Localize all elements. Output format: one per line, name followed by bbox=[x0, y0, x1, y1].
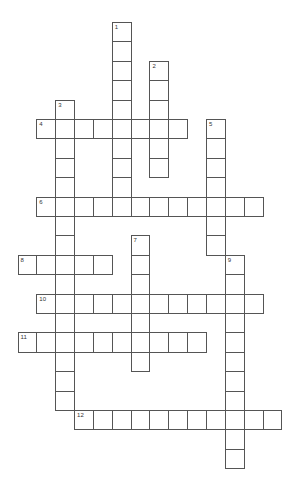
crossword-cell[interactable] bbox=[55, 158, 75, 178]
crossword-cell[interactable]: 9 bbox=[225, 255, 245, 275]
crossword-cell[interactable] bbox=[93, 332, 113, 352]
crossword-cell[interactable] bbox=[149, 100, 169, 120]
crossword-cell[interactable] bbox=[55, 274, 75, 294]
crossword-cell[interactable] bbox=[187, 332, 207, 352]
crossword-cell[interactable] bbox=[55, 371, 75, 391]
crossword-cell[interactable] bbox=[206, 294, 226, 314]
crossword-cell[interactable] bbox=[263, 410, 283, 430]
crossword-cell[interactable] bbox=[225, 332, 245, 352]
crossword-cell[interactable] bbox=[168, 197, 188, 217]
crossword-cell[interactable] bbox=[55, 197, 75, 217]
crossword-cell[interactable]: 8 bbox=[18, 255, 38, 275]
crossword-cell[interactable] bbox=[74, 332, 94, 352]
crossword-cell[interactable] bbox=[55, 352, 75, 372]
crossword-cell[interactable] bbox=[149, 119, 169, 139]
crossword-cell[interactable] bbox=[149, 138, 169, 158]
crossword-cell[interactable] bbox=[112, 177, 132, 197]
crossword-cell[interactable] bbox=[149, 294, 169, 314]
crossword-cell[interactable] bbox=[55, 216, 75, 236]
crossword-cell[interactable] bbox=[55, 391, 75, 411]
crossword-cell[interactable] bbox=[225, 274, 245, 294]
crossword-cell[interactable] bbox=[225, 449, 245, 469]
crossword-cell[interactable] bbox=[36, 255, 56, 275]
crossword-cell[interactable] bbox=[112, 410, 132, 430]
crossword-cell[interactable] bbox=[244, 410, 264, 430]
crossword-cell[interactable]: 11 bbox=[18, 332, 38, 352]
crossword-cell[interactable] bbox=[131, 119, 151, 139]
crossword-cell[interactable] bbox=[149, 332, 169, 352]
crossword-cell[interactable] bbox=[225, 313, 245, 333]
crossword-cell[interactable] bbox=[55, 332, 75, 352]
crossword-cell[interactable] bbox=[225, 429, 245, 449]
crossword-cell[interactable] bbox=[187, 410, 207, 430]
crossword-cell[interactable] bbox=[149, 197, 169, 217]
crossword-cell[interactable] bbox=[55, 235, 75, 255]
crossword-cell[interactable] bbox=[225, 294, 245, 314]
crossword-cell[interactable] bbox=[55, 294, 75, 314]
crossword-cell[interactable]: 3 bbox=[55, 100, 75, 120]
crossword-cell[interactable]: 12 bbox=[74, 410, 94, 430]
crossword-cell[interactable] bbox=[112, 294, 132, 314]
crossword-cell[interactable] bbox=[225, 352, 245, 372]
crossword-cell[interactable] bbox=[206, 216, 226, 236]
crossword-cell[interactable] bbox=[36, 332, 56, 352]
crossword-cell[interactable] bbox=[93, 197, 113, 217]
crossword-cell[interactable] bbox=[93, 294, 113, 314]
crossword-cell[interactable] bbox=[74, 119, 94, 139]
crossword-cell[interactable] bbox=[187, 294, 207, 314]
crossword-cell[interactable]: 10 bbox=[36, 294, 56, 314]
crossword-cell[interactable] bbox=[112, 80, 132, 100]
crossword-cell[interactable]: 4 bbox=[36, 119, 56, 139]
crossword-cell[interactable] bbox=[244, 294, 264, 314]
crossword-cell[interactable]: 6 bbox=[36, 197, 56, 217]
crossword-cell[interactable] bbox=[225, 197, 245, 217]
crossword-cell[interactable] bbox=[93, 410, 113, 430]
crossword-cell[interactable] bbox=[131, 197, 151, 217]
crossword-cell[interactable] bbox=[131, 352, 151, 372]
crossword-cell[interactable] bbox=[74, 255, 94, 275]
crossword-cell[interactable] bbox=[225, 371, 245, 391]
crossword-cell[interactable] bbox=[112, 138, 132, 158]
crossword-cell[interactable] bbox=[131, 274, 151, 294]
crossword-cell[interactable]: 2 bbox=[149, 61, 169, 81]
crossword-cell[interactable] bbox=[225, 410, 245, 430]
crossword-cell[interactable] bbox=[149, 158, 169, 178]
crossword-cell[interactable] bbox=[225, 391, 245, 411]
crossword-cell[interactable] bbox=[206, 235, 226, 255]
crossword-cell[interactable] bbox=[55, 255, 75, 275]
crossword-cell[interactable] bbox=[206, 410, 226, 430]
crossword-cell[interactable] bbox=[112, 100, 132, 120]
crossword-cell[interactable] bbox=[112, 119, 132, 139]
crossword-cell[interactable] bbox=[168, 294, 188, 314]
crossword-cell[interactable] bbox=[131, 410, 151, 430]
crossword-cell[interactable] bbox=[244, 197, 264, 217]
crossword-cell[interactable] bbox=[112, 41, 132, 61]
crossword-cell[interactable] bbox=[93, 255, 113, 275]
crossword-cell[interactable] bbox=[112, 197, 132, 217]
crossword-cell[interactable] bbox=[112, 332, 132, 352]
crossword-cell[interactable]: 5 bbox=[206, 119, 226, 139]
crossword-cell[interactable] bbox=[55, 177, 75, 197]
crossword-cell[interactable]: 7 bbox=[131, 235, 151, 255]
crossword-cell[interactable] bbox=[131, 255, 151, 275]
crossword-cell[interactable] bbox=[168, 332, 188, 352]
crossword-cell[interactable] bbox=[74, 197, 94, 217]
crossword-cell[interactable] bbox=[112, 158, 132, 178]
crossword-cell[interactable] bbox=[168, 410, 188, 430]
crossword-cell[interactable] bbox=[187, 197, 207, 217]
crossword-cell[interactable] bbox=[93, 119, 113, 139]
crossword-cell[interactable] bbox=[206, 177, 226, 197]
crossword-cell[interactable] bbox=[131, 294, 151, 314]
crossword-cell[interactable] bbox=[206, 158, 226, 178]
crossword-cell[interactable] bbox=[112, 61, 132, 81]
crossword-cell[interactable] bbox=[206, 197, 226, 217]
crossword-cell[interactable] bbox=[149, 80, 169, 100]
crossword-cell[interactable]: 1 bbox=[112, 22, 132, 42]
crossword-cell[interactable] bbox=[168, 119, 188, 139]
crossword-cell[interactable] bbox=[149, 410, 169, 430]
crossword-cell[interactable] bbox=[55, 119, 75, 139]
crossword-cell[interactable] bbox=[206, 138, 226, 158]
crossword-cell[interactable] bbox=[131, 332, 151, 352]
crossword-cell[interactable] bbox=[55, 313, 75, 333]
crossword-cell[interactable] bbox=[74, 294, 94, 314]
